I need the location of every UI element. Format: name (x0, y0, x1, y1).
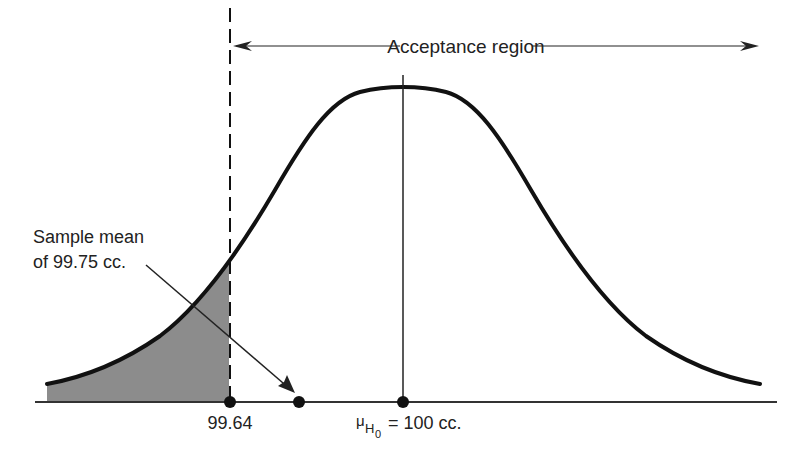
mean-value-label: = 100 cc. (388, 413, 462, 433)
acceptance-region-label: Acceptance region (387, 36, 544, 57)
critical-value-label: 99.64 (207, 413, 252, 433)
sample-mean-label-line2: of 99.75 cc. (33, 252, 126, 272)
pointer-arrowhead-icon (278, 375, 295, 393)
mean-label: μ H 0 = 100 cc. (356, 412, 462, 440)
critical-value-point (224, 396, 236, 408)
sample-mean-label-line1: Sample mean (33, 227, 144, 247)
sample-mean-point (293, 396, 305, 408)
mu-subscript: H (365, 421, 374, 436)
mu-symbol: μ (356, 412, 365, 429)
hypothesis-test-diagram: Acceptance region Sample mean of 99.75 c… (0, 0, 809, 463)
mu-subsubscript: 0 (375, 428, 381, 440)
mean-point (397, 396, 409, 408)
rejection-region-shade (47, 262, 229, 401)
